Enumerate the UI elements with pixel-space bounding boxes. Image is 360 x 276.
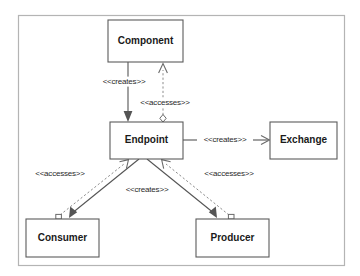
node-component[interactable]: Component <box>108 20 183 62</box>
node-label-producer: Producer <box>211 232 255 243</box>
node-consumer[interactable]: Consumer <box>26 219 99 257</box>
node-exchange[interactable]: Exchange <box>270 122 337 159</box>
edge-label-endpoint-creates-consumer-producer: <<creates>> <box>126 185 169 194</box>
edge-label-endpoint-creates-exchange: <<creates>> <box>204 135 247 144</box>
node-label-consumer: Consumer <box>38 232 88 243</box>
port-square-icon <box>56 214 62 219</box>
node-producer[interactable]: Producer <box>196 219 269 257</box>
edge-label-producer-accesses-endpoint: <<accesses>> <box>204 169 254 178</box>
node-label-component: Component <box>118 35 174 46</box>
uml-diagram: Endpoint : solid vertical line, filled a… <box>0 0 360 276</box>
node-label-endpoint: Endpoint <box>125 134 169 145</box>
edge-label-component-creates-endpoint: <<creates>> <box>103 77 146 86</box>
edge-label-consumer-accesses-endpoint: <<accesses>> <box>35 169 85 178</box>
port-square-icon <box>228 214 234 219</box>
diagram-canvas: Endpoint : solid vertical line, filled a… <box>0 0 360 276</box>
edge-label-endpoint-accesses-component: <<accesses>> <box>140 98 190 107</box>
node-label-exchange: Exchange <box>280 134 328 145</box>
node-endpoint[interactable]: Endpoint <box>110 122 183 159</box>
